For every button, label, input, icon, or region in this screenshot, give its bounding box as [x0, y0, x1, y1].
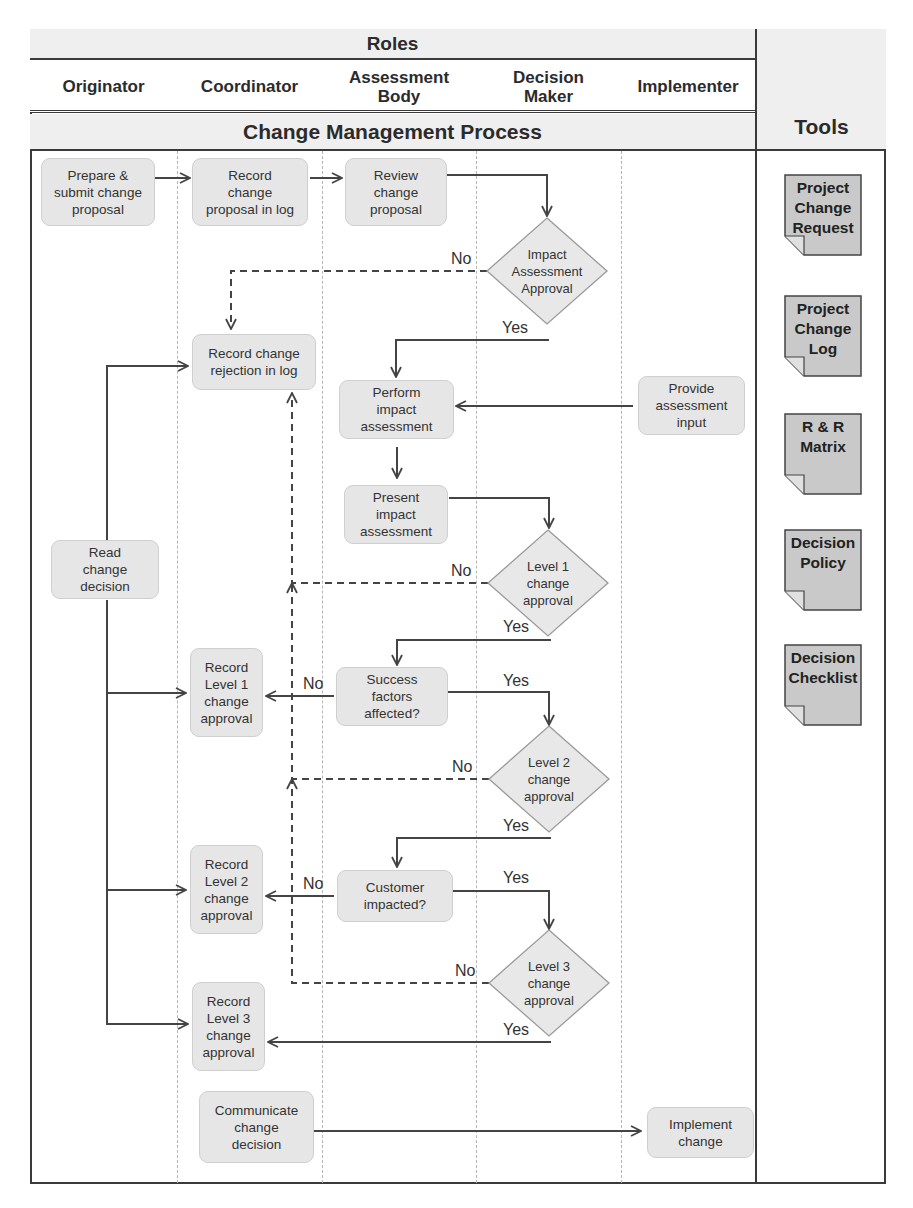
process-step-present-impact: Present impact assessment	[344, 485, 448, 544]
tools-title: Tools	[794, 115, 848, 139]
process-title-band: Change Management Process	[30, 114, 755, 151]
edge-label-no-level2: No	[452, 759, 472, 775]
tools-column-divider	[755, 150, 757, 1184]
roles-header: Roles	[30, 29, 755, 60]
edge-label-yes-impact: Yes	[502, 320, 528, 336]
process-step-read-decision: Read change decision	[51, 540, 159, 599]
role-decision-maker: Decision Maker	[476, 60, 621, 113]
tool-project-change-request: Project Change Request	[784, 174, 862, 256]
process-step-review-proposal: Review change proposal	[345, 158, 447, 226]
edge-label-yes-customer: Yes	[503, 870, 529, 886]
tool-label-project-change-request: Project Change Request	[784, 178, 862, 238]
process-step-perform-impact: Perform impact assessment	[339, 380, 454, 439]
process-step-record-level1: Record Level 1 change approval	[190, 648, 263, 737]
tool-label-rr-matrix: R & R Matrix	[784, 417, 862, 457]
process-step-record-proposal: Record change proposal in log	[192, 158, 308, 226]
tool-rr-matrix: R & R Matrix	[784, 413, 862, 495]
roles-title: Roles	[367, 33, 419, 55]
tools-header: Tools	[755, 29, 886, 151]
role-names-row: OriginatorCoordinatorAssessment BodyDeci…	[30, 60, 755, 113]
process-step-success-factors: Success factors affected?	[336, 667, 448, 726]
tool-label-project-change-log: Project Change Log	[784, 299, 862, 359]
lane-divider	[476, 151, 477, 1183]
role-implementer: Implementer	[621, 60, 755, 113]
process-step-provide-input: Provide assessment input	[638, 376, 745, 435]
edge-label-yes-level3: Yes	[503, 1022, 529, 1038]
process-step-customer-impacted: Customer impacted?	[337, 870, 453, 922]
role-coordinator: Coordinator	[177, 60, 322, 113]
process-title: Change Management Process	[243, 120, 542, 144]
role-originator: Originator	[30, 60, 177, 113]
role-assessment-body: Assessment Body	[322, 60, 476, 113]
edge-label-no-level3: No	[455, 963, 475, 979]
process-step-record-level2: Record Level 2 change approval	[190, 845, 263, 934]
edge-label-no-level1: No	[451, 563, 471, 579]
process-step-implement-change: Implement change	[647, 1107, 754, 1158]
change-management-swimlane-diagram: Roles OriginatorCoordinatorAssessment Bo…	[0, 0, 913, 1208]
tool-label-decision-checklist: Decision Checklist	[784, 648, 862, 688]
lane-divider	[322, 151, 323, 1183]
process-step-communicate-decision: Communicate change decision	[199, 1091, 314, 1163]
edge-label-yes-level1: Yes	[503, 619, 529, 635]
edge-label-yes-success: Yes	[503, 673, 529, 689]
tool-project-change-log: Project Change Log	[784, 295, 862, 377]
edge-label-no-success: No	[303, 676, 323, 692]
edge-label-no-customer: No	[303, 876, 323, 892]
edge-label-no-impact: No	[451, 251, 471, 267]
edge-label-yes-level2: Yes	[503, 818, 529, 834]
lane-divider	[621, 151, 622, 1183]
tool-decision-checklist: Decision Checklist	[784, 644, 862, 726]
process-step-record-rejection: Record change rejection in log	[192, 334, 316, 390]
diagram-frame	[30, 29, 886, 1184]
tool-decision-policy: Decision Policy	[784, 529, 862, 611]
process-step-record-level3: Record Level 3 change approval	[192, 982, 265, 1071]
process-step-prepare-submit: Prepare & submit change proposal	[41, 158, 155, 226]
lane-divider	[177, 151, 178, 1183]
tool-label-decision-policy: Decision Policy	[784, 533, 862, 573]
